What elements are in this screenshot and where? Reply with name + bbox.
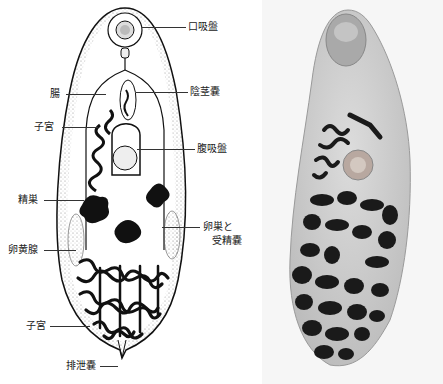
label-ovary-receptaculum-line2: 受精嚢: [212, 235, 242, 247]
label-testis: 精巣: [18, 194, 38, 206]
vitelline-gland-left: [68, 214, 84, 266]
anatomy-drawing-panel: 口吸盤 腸 陰茎嚢 子宮 腹吸盤 精巣 卵巣と 受精嚢 卵黄腺 子宮 排泄嚢: [0, 0, 262, 384]
label-oral-sucker: 口吸盤: [188, 21, 218, 33]
specimen-photo: [262, 0, 443, 384]
specimen-photo-panel: [262, 0, 443, 384]
vitelline-gland-right: [164, 211, 180, 259]
label-cirrus-sac: 陰茎嚢: [190, 86, 220, 98]
label-uterus-upper: 子宮: [34, 121, 54, 133]
label-excretory-bladder: 排泄嚢: [66, 360, 96, 372]
label-ovary-receptaculum-line1: 卵巣と: [203, 221, 233, 233]
ventral-sucker: [113, 146, 137, 170]
label-intestine: 腸: [50, 88, 60, 100]
label-uterus-lower: 子宮: [26, 320, 46, 332]
label-ventral-sucker: 腹吸盤: [197, 143, 227, 155]
label-vitelline-gland: 卵黄腺: [8, 244, 38, 256]
